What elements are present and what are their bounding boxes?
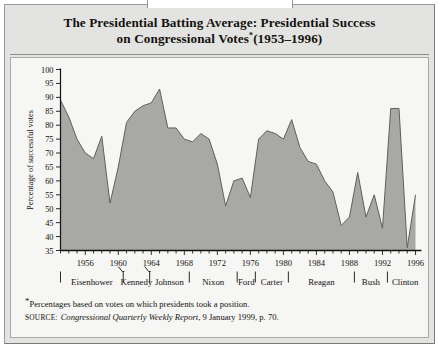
top-notch-decoration [147, 0, 293, 8]
x-tick-label: 1972 [209, 258, 226, 268]
y-tick-label: 90 [45, 93, 53, 102]
page-title: The Presidential Batting Average: Presid… [50, 15, 390, 48]
figure-container: The Presidential Batting Average: Presid… [0, 0, 439, 348]
footnote-note: Percentages based on votes on which pres… [30, 299, 250, 309]
data-area-series [61, 89, 416, 251]
footnote-block: *Percentages based on votes on which pre… [25, 296, 279, 322]
y-axis-ticks: 35404550556065707580859095100 [41, 66, 61, 256]
title-line-2-pre: on Congressional Votes [117, 31, 249, 46]
footnote-source-rest: , 9 January 1999, p. 70. [198, 312, 278, 322]
x-tick-label: 1980 [275, 258, 292, 268]
footnote-source-label: SOURCE: [25, 313, 58, 322]
y-tick-label: 85 [45, 107, 53, 116]
president-label: Kennedy [121, 277, 153, 287]
y-tick-label: 50 [45, 205, 53, 214]
x-axis-ticks [61, 251, 416, 256]
chart-title-box: The Presidential Batting Average: Presid… [10, 8, 429, 55]
y-tick-label: 100 [41, 66, 54, 75]
chart-area: Percentage of successful votes 354045505… [11, 58, 430, 339]
area-fill [61, 89, 416, 251]
x-tick-label: 1976 [242, 258, 260, 268]
president-label: Johnson [155, 277, 184, 287]
president-label: Nixon [202, 277, 225, 287]
president-label: Bush [362, 277, 381, 287]
title-line-2-post: (1953–1996) [253, 31, 322, 46]
y-tick-label: 95 [45, 79, 53, 88]
x-tick-label: 1984 [308, 258, 326, 268]
footnote-source: SOURCE:Congressional Quarterly Weekly Re… [25, 312, 279, 322]
x-tick-label: 1956 [77, 258, 95, 268]
y-axis-title-text: Percentage of successful votes [26, 110, 35, 210]
president-label: Clinton [392, 277, 419, 287]
y-tick-label: 55 [45, 191, 53, 200]
y-tick-label: 75 [45, 135, 53, 144]
y-tick-label: 45 [45, 219, 53, 228]
title-line-1: The Presidential Batting Average: Presid… [64, 15, 376, 30]
x-tick-label: 1968 [176, 258, 193, 268]
y-tick-label: 70 [45, 149, 53, 158]
y-axis-title: Percentage of successful votes [26, 110, 35, 210]
x-axis-labels: 1956196019641968197219761980198419881992… [77, 258, 425, 268]
president-bands: EisenhowerKennedyJohnsonNixonFordCarterR… [61, 267, 423, 287]
plot-card: Percentage of successful votes 354045505… [10, 57, 429, 338]
y-tick-label: 40 [45, 233, 53, 242]
y-tick-label: 60 [45, 177, 53, 186]
y-tick-label: 65 [45, 163, 53, 172]
y-tick-label: 35 [45, 247, 53, 256]
x-tick-label: 1992 [374, 258, 391, 268]
x-tick-label: 1960 [110, 258, 127, 268]
x-tick-label: 1964 [143, 258, 161, 268]
president-label: Carter [261, 277, 283, 287]
president-label: Eisenhower [71, 277, 113, 287]
x-tick-label: 1988 [341, 258, 358, 268]
y-tick-label: 80 [45, 121, 53, 130]
president-label: Reagan [308, 277, 335, 287]
x-tick-label: 1996 [407, 258, 425, 268]
area-chart: Percentage of successful votes 354045505… [11, 58, 430, 339]
footnote-source-title: Congressional Quarterly Weekly Report [61, 312, 199, 322]
president-label: Ford [238, 277, 255, 287]
